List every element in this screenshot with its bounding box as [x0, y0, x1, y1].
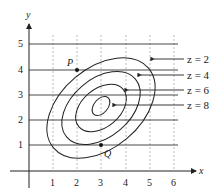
contour-z8: [89, 93, 114, 119]
x-tick-2: 2: [74, 177, 79, 188]
y-tick-4: 4: [18, 64, 23, 75]
point-q-marker: [99, 143, 103, 147]
point-p-marker: [75, 68, 79, 72]
contour-label-z4: z = 4: [187, 69, 210, 81]
contour-label-z6: z = 6: [187, 84, 210, 96]
y-tick-1: 1: [18, 139, 23, 150]
vertical-grid-lines: [53, 35, 174, 171]
x-tick-1: 1: [50, 177, 55, 188]
contour-label-z2: z = 2: [187, 53, 209, 65]
x-tick-labels: 1 2 3 4 5 6: [50, 177, 176, 188]
axes: [10, 24, 196, 188]
x-tick-3: 3: [98, 177, 103, 188]
y-axis-label: y: [25, 9, 31, 20]
y-tick-2: 2: [18, 114, 23, 125]
point-p-label: P: [66, 57, 73, 68]
x-tick-4: 4: [123, 177, 128, 188]
contour-diagram: P Q z = 2 z = 4 z = 6 z = 8 y x 1 2 3 4 …: [0, 0, 223, 194]
x-tick-5: 5: [147, 177, 152, 188]
contour-label-z8: z = 8: [187, 99, 210, 111]
y-tick-5: 5: [18, 38, 23, 49]
y-tick-labels: 1 2 3 4 5: [18, 38, 23, 150]
y-tick-3: 3: [18, 89, 23, 100]
x-tick-6: 6: [171, 177, 176, 188]
x-axis-label: x: [198, 165, 204, 176]
point-q-label: Q: [104, 148, 112, 159]
